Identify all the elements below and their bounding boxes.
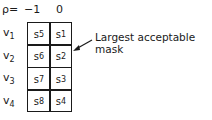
- annotation-label: Largest acceptable mask: [95, 31, 212, 55]
- arrow-icon: [0, 0, 212, 120]
